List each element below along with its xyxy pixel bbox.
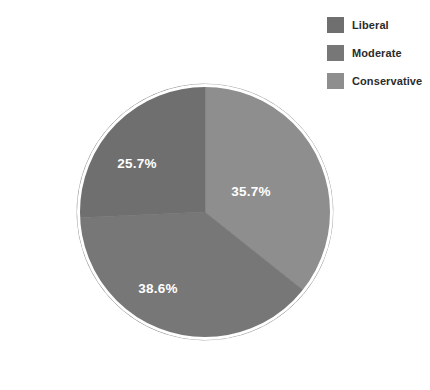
legend-item-moderate[interactable]: Moderate [327, 45, 427, 61]
legend-label-liberal: Liberal [352, 19, 389, 31]
legend-swatch-conservative-icon [327, 73, 344, 89]
legend-item-conservative[interactable]: Conservative [327, 73, 427, 89]
legend-swatch-moderate-icon [327, 45, 344, 61]
pie-svg: 35.7% 38.6% 25.7% [0, 0, 340, 390]
chart-legend: Liberal Moderate Conservative [327, 17, 427, 101]
pie-chart: 35.7% 38.6% 25.7% Liberal Moderate Conse… [0, 0, 430, 390]
slice-label-moderate: 38.6% [138, 281, 177, 296]
legend-item-liberal[interactable]: Liberal [327, 17, 427, 33]
slice-label-liberal: 25.7% [117, 156, 156, 171]
legend-label-moderate: Moderate [352, 47, 402, 59]
pie-plot-area: 35.7% 38.6% 25.7% [0, 0, 340, 390]
slice-label-conservative: 35.7% [231, 184, 270, 199]
legend-label-conservative: Conservative [352, 75, 422, 87]
legend-swatch-liberal-icon [327, 17, 344, 33]
